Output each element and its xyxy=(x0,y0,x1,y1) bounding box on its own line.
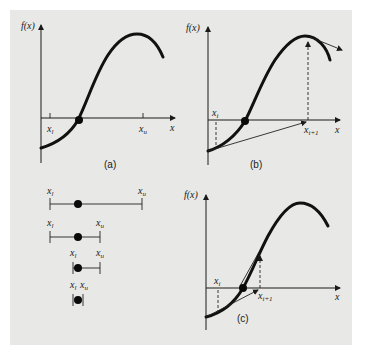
bracket-row-4-root-dot xyxy=(74,296,82,304)
bracket-row-1-root-dot xyxy=(74,200,82,208)
panel-c-y-label: f(x) xyxy=(184,189,199,201)
panel-b-caption: (b) xyxy=(250,159,262,170)
panel-c-caption: (c) xyxy=(237,313,249,324)
panel-a-y-label: f(x) xyxy=(21,20,36,32)
root-finding-figure: f(x) x xl xu (a) f(x) x xi xi+1 (b) xl x… xyxy=(0,0,366,357)
panel-b-root-dot xyxy=(241,117,249,125)
panel-c-root-dot xyxy=(239,284,247,292)
bracket-row-3-root-dot xyxy=(74,264,82,272)
panel-b-y-label: f(x) xyxy=(186,22,201,34)
panel-a-x-label: x xyxy=(169,122,175,133)
panel-a-root-dot xyxy=(75,116,83,124)
panel-a-caption: (a) xyxy=(104,159,116,170)
bracket-row-2-root-dot xyxy=(74,233,82,241)
panel-c-x-label: x xyxy=(334,291,340,302)
panel-b-x-label: x xyxy=(334,124,340,135)
figure-background xyxy=(10,10,352,345)
